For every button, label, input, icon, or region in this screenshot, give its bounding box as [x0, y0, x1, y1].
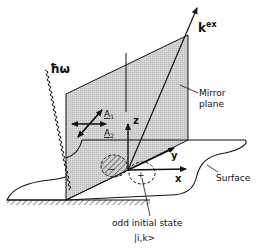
photon-label: ħω	[50, 62, 70, 76]
a2-sub: 2	[110, 132, 114, 139]
mirror-plane-label-1: Mirror	[199, 88, 226, 98]
x-axis-label: x	[175, 173, 182, 184]
photoemission-diagram: − + ħω kex Mirror plane A1 A2 z y x Surf…	[0, 0, 263, 249]
surface-leader	[207, 165, 218, 172]
a1-sub: 1	[110, 113, 114, 120]
initial-state-label-1: odd initial state	[112, 218, 183, 228]
x-axis	[128, 169, 186, 170]
k-ex-label: kex	[198, 20, 217, 35]
lobe-minus-sign: −	[108, 164, 116, 174]
mirror-plane-label-2: plane	[199, 99, 224, 109]
y-axis-label: y	[171, 150, 178, 161]
z-axis-label: z	[133, 115, 139, 126]
initial-state-leader	[142, 178, 150, 216]
surface-label: Surface	[216, 173, 251, 183]
initial-state-label-2: |i,k>	[134, 233, 155, 243]
lobe-plus-sign: +	[137, 170, 145, 180]
substrate-hatch	[7, 200, 150, 205]
mirror-plane	[66, 35, 188, 200]
k-ex-sup: ex	[206, 20, 217, 29]
